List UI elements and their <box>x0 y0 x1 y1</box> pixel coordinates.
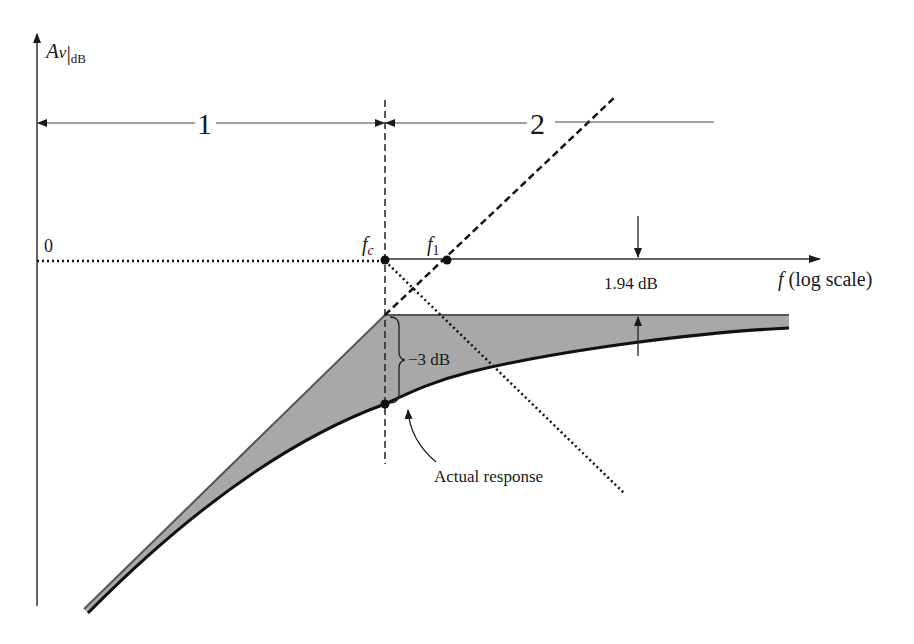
deviation-fc-label: −3 dB <box>408 350 450 370</box>
actual-response-label: Actual response <box>434 467 543 487</box>
f1-label: f1 <box>427 233 440 256</box>
actual-response-pointer <box>408 410 436 462</box>
region-2-label: 2 <box>530 107 545 141</box>
region-1-label: 1 <box>197 107 212 141</box>
fc-actual-point <box>381 400 390 409</box>
x-axis-label: f (log scale) <box>778 268 872 291</box>
rising-dashed-extension <box>385 96 616 315</box>
fc-point <box>381 256 390 265</box>
origin-label: 0 <box>44 236 53 257</box>
deviation-f1-label: 1.94 dB <box>604 274 658 294</box>
plot-graphics <box>0 0 914 644</box>
bode-plot-diagram: Av|dB 0 1 2 fc f1 f (log scale) 1.94 dB … <box>0 0 914 644</box>
f1-point <box>443 256 452 265</box>
fc-label: fc <box>362 233 374 256</box>
y-axis-label: Av|dB <box>46 38 86 64</box>
